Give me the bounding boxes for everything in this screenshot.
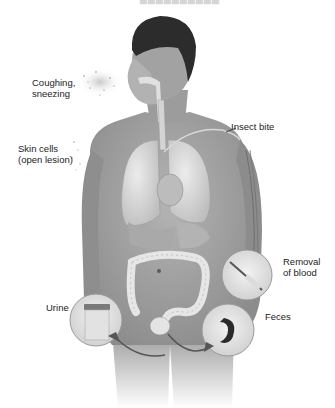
cropped-title-fragment: ▆▆▆▆▆▆▆▆▆▆ [140,0,220,4]
insect-bite-label: Insect bite [231,121,274,132]
skin-cells-label: Skin cells (open lesion) [18,143,73,165]
bladder [150,317,170,335]
feces-label: Feces [265,311,291,322]
blood-draw-inset [222,250,272,300]
navel [157,269,161,273]
removal-of-blood-label: Removal of blood [283,256,321,278]
urine-cup-lid [84,304,110,310]
specimen-sources-diagram: ▆▆▆▆▆▆▆▆▆▆ Coughing, sneezing Skin cells… [0,0,335,408]
urine-label: Urine [46,302,69,313]
urine-cup [85,310,109,340]
anatomy-illustration [0,0,335,408]
cough-spray [78,68,122,96]
coughing-label: Coughing, sneezing [32,77,75,99]
heart [157,174,183,206]
